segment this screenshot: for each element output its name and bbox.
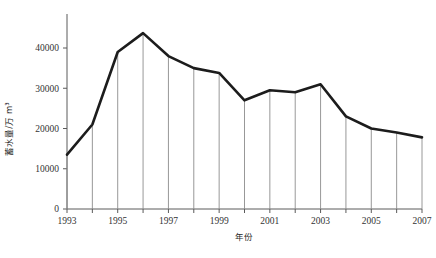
x-tick-label: 2007 (413, 216, 432, 226)
x-tick-label: 2001 (260, 216, 279, 226)
y-axis: 010000200003000040000 (35, 14, 67, 214)
chart-container: 010000200003000040000 199319951997199920… (0, 0, 436, 258)
y-tick-label: 20000 (35, 124, 59, 134)
x-axis-title: 年份 (235, 232, 253, 242)
y-tick-label: 40000 (35, 43, 59, 53)
x-tick-label: 1995 (108, 216, 127, 226)
y-tick-group: 010000200003000040000 (35, 43, 67, 214)
x-tick-group: 19931995199719992001200320052007 (58, 209, 432, 226)
line-chart: 010000200003000040000 199319951997199920… (0, 0, 436, 258)
x-tick-label: 1997 (159, 216, 178, 226)
x-tick-label: 2003 (311, 216, 330, 226)
x-axis: 19931995199719992001200320052007 (58, 209, 432, 226)
y-tick-label: 30000 (35, 84, 59, 94)
x-tick-label: 1993 (58, 216, 77, 226)
x-tick-label: 1999 (210, 216, 229, 226)
y-tick-label: 10000 (35, 164, 59, 174)
drop-line-group (67, 33, 422, 209)
x-tick-label: 2005 (362, 216, 381, 226)
y-tick-label: 0 (54, 204, 59, 214)
